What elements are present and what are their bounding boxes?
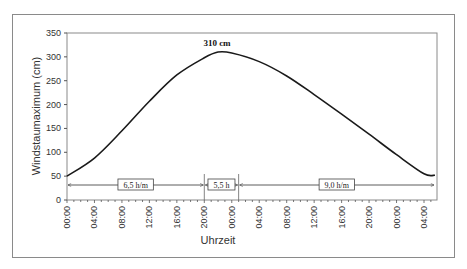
y-tick-label: 250: [46, 76, 61, 86]
x-tick-label: 00:00: [62, 206, 72, 229]
x-axis: 00:0004:0008:0012:0016:0020:0000:0004:00…: [62, 200, 431, 229]
x-tick-label: 04:00: [89, 206, 99, 229]
interval-label: 9,0 h/m: [325, 181, 350, 190]
x-tick-label: 00:00: [392, 206, 402, 229]
line-chart: 050100150200250300350 00:0004:0008:0012:…: [0, 0, 467, 269]
x-tick-label: 12:00: [309, 206, 319, 229]
x-tick-label: 00:00: [227, 206, 237, 229]
interval-label: 6,5 h/m: [123, 181, 148, 190]
y-tick-label: 350: [46, 28, 61, 38]
x-tick-label: 20:00: [199, 206, 209, 229]
x-tick-label: 20:00: [364, 206, 374, 229]
y-tick-label: 150: [46, 123, 61, 133]
interval-label: 5,5 h: [213, 181, 229, 190]
x-tick-label: 16:00: [172, 206, 182, 229]
y-axis: 050100150200250300350: [46, 28, 67, 205]
y-tick-label: 300: [46, 52, 61, 62]
y-axis-title: Windstaumaximum (cm): [30, 57, 42, 176]
x-axis-title: Uhrzeit: [201, 234, 236, 246]
peak-label: 310 cm: [203, 38, 231, 48]
x-tick-label: 12:00: [144, 206, 154, 229]
y-tick-label: 100: [46, 147, 61, 157]
x-tick-label: 08:00: [282, 206, 292, 229]
y-tick-label: 200: [46, 100, 61, 110]
interval-arrows: 6,5 h/m5,5 h9,0 h/m: [68, 179, 434, 190]
x-tick-label: 08:00: [117, 206, 127, 229]
y-tick-label: 50: [51, 171, 61, 181]
x-tick-label: 04:00: [254, 206, 264, 229]
x-tick-label: 16:00: [337, 206, 347, 229]
x-tick-label: 04:00: [419, 206, 429, 229]
windstau-curve: [67, 52, 435, 177]
y-tick-label: 0: [56, 195, 61, 205]
